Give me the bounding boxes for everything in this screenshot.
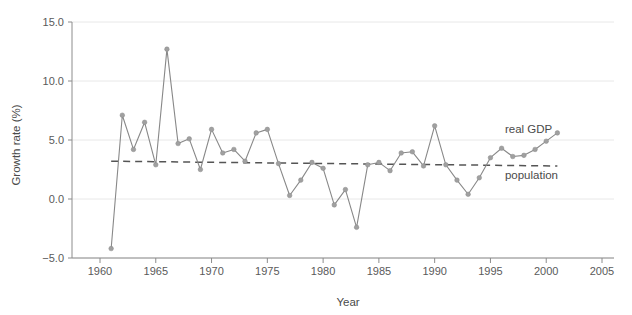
real-gdp-data-point [254, 131, 259, 136]
x-tick-label: 1965 [144, 265, 168, 277]
y-tick-label: 5.0 [49, 134, 64, 146]
real-gdp-data-point [399, 151, 404, 156]
y-tick-label: 15.0 [43, 16, 64, 28]
real-gdp-data-point [499, 146, 504, 151]
real-gdp-data-point [198, 167, 203, 172]
real-gdp-data-point [321, 166, 326, 171]
real-gdp-data-point [365, 162, 370, 167]
x-tick-label: 1970 [199, 265, 223, 277]
real-gdp-data-point [544, 139, 549, 144]
real-gdp-data-point [287, 193, 292, 198]
series-label-population: population [505, 169, 558, 181]
real-gdp-data-point [131, 147, 136, 152]
real-gdp-data-point [477, 175, 482, 180]
real-gdp-data-point [555, 131, 560, 136]
x-axis [72, 258, 614, 263]
real-gdp-data-point [220, 151, 225, 156]
chart-figure: −5.00.05.010.015.0 196019651970197519801… [0, 0, 632, 315]
x-tick-label: 1990 [422, 265, 446, 277]
x-tick-label: 1985 [367, 265, 391, 277]
x-tick-label: 1995 [478, 265, 502, 277]
real-gdp-data-point [377, 160, 382, 165]
real-gdp-data-point [153, 162, 158, 167]
y-tick-labels: −5.00.05.010.015.0 [42, 16, 64, 264]
real-gdp-data-point [142, 120, 147, 125]
real-gdp-data-point [466, 192, 471, 197]
real-gdp-data-point [243, 159, 248, 164]
real-gdp-data-point [432, 124, 437, 129]
y-tick-label: 10.0 [43, 75, 64, 87]
real-gdp-line [111, 49, 557, 248]
real-gdp-data-point [455, 178, 460, 183]
real-gdp-data-point [165, 47, 170, 52]
real-gdp-data-point [444, 162, 449, 167]
x-tick-label: 1980 [311, 265, 335, 277]
real-gdp-data-point [533, 147, 538, 152]
real-gdp-data-point [488, 155, 493, 160]
real-gdp-data-point [510, 154, 515, 159]
real-gdp-data-point [354, 225, 359, 230]
real-gdp-data-point [310, 160, 315, 165]
real-gdp-data-point [388, 168, 393, 173]
population-trend-line [111, 161, 557, 166]
population-series [111, 161, 557, 166]
x-tick-label: 2005 [590, 265, 614, 277]
real-gdp-data-point [522, 153, 527, 158]
x-tick-label: 2000 [534, 265, 558, 277]
x-axis-title: Year [336, 296, 359, 308]
real-gdp-data-point [410, 150, 415, 155]
x-tick-label: 1975 [255, 265, 279, 277]
y-axis [68, 22, 72, 258]
real-gdp-data-point [109, 246, 114, 251]
y-axis-title: Growth rate (%) [10, 104, 22, 185]
y-tick-label: 0.0 [49, 193, 64, 205]
real-gdp-data-point [187, 137, 192, 142]
real-gdp-data-point [343, 187, 348, 192]
x-tick-labels: 1960196519701975198019851990199520002005 [88, 265, 614, 277]
x-tick-label: 1960 [88, 265, 112, 277]
real-gdp-data-point [276, 161, 281, 166]
real-gdp-data-point [265, 127, 270, 132]
gridlines [72, 22, 614, 258]
y-tick-label: −5.0 [42, 252, 64, 264]
real-gdp-data-point [421, 164, 426, 169]
real-gdp-series [109, 47, 560, 251]
real-gdp-data-point [299, 178, 304, 183]
real-gdp-data-point [120, 113, 125, 118]
real-gdp-data-point [209, 127, 214, 132]
real-gdp-data-point [176, 141, 181, 146]
real-gdp-data-point [332, 203, 337, 208]
growth-rate-line-chart: −5.00.05.010.015.0 196019651970197519801… [0, 0, 632, 315]
series-label-real-gdp: real GDP [505, 123, 553, 135]
real-gdp-data-point [232, 147, 237, 152]
